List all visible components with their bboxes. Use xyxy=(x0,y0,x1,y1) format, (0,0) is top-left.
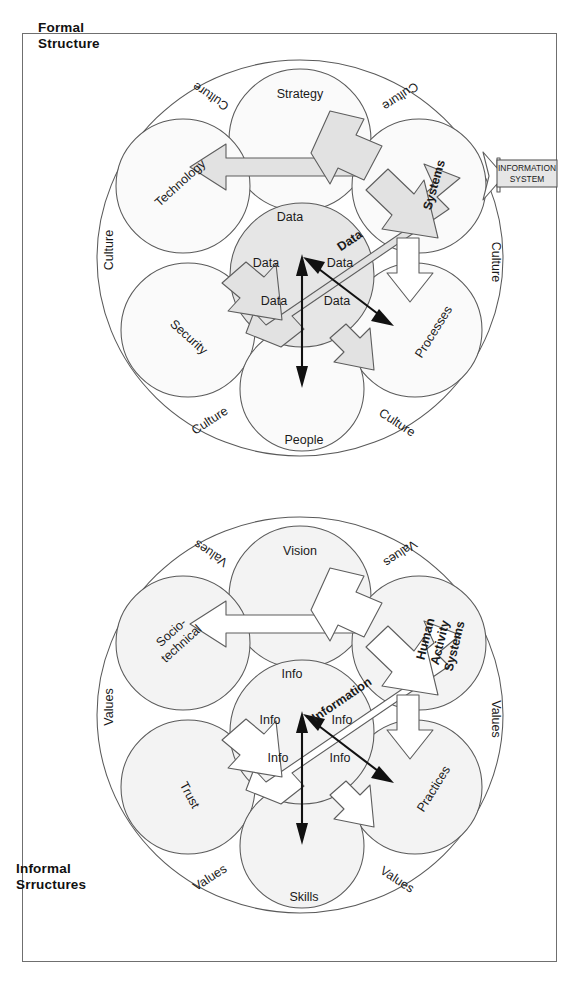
information-system-line1: INFORMATION xyxy=(498,163,556,173)
informal-structures-label: Informal Srructures xyxy=(16,861,86,893)
label-info-1: Info xyxy=(282,667,303,681)
ring-label-culture-top-left: Culture xyxy=(190,79,231,113)
ring-label-culture-bottom-left: Culture xyxy=(189,404,230,438)
ring-label-culture-bottom-right: Culture xyxy=(376,406,417,440)
formal-structure-line2: Structure xyxy=(38,36,100,52)
formal-structure-line1: Formal xyxy=(38,20,100,36)
label-data-3: Data xyxy=(327,256,353,270)
ring-label-culture-top-right: Culture xyxy=(380,79,421,113)
ring-label-culture-left: Culture xyxy=(102,230,116,270)
ring-label-values-bottom-right: Values xyxy=(378,864,417,896)
ring-label-culture-right: Culture xyxy=(489,242,503,282)
informal-structures-line1: Informal xyxy=(16,861,86,877)
ring-label-values-left: Values xyxy=(102,688,116,725)
ring-label-values-top-right: Values xyxy=(381,537,420,569)
diagram-canvas: Strategy Technology Security People Proc… xyxy=(0,0,588,989)
label-info-4: Info xyxy=(268,751,289,765)
label-info-5: Info xyxy=(330,751,351,765)
ring-label-values-top-left: Values xyxy=(191,537,230,569)
ring-label-values-bottom-left: Values xyxy=(190,862,229,894)
label-strategy: Strategy xyxy=(277,87,324,101)
informal-structures-line2: Srructures xyxy=(16,877,86,893)
label-info-3: Info xyxy=(332,713,353,727)
label-data-2: Data xyxy=(253,256,279,270)
label-data-5: Data xyxy=(324,294,350,308)
label-data-4: Data xyxy=(261,294,287,308)
label-people: People xyxy=(285,433,324,447)
label-vision: Vision xyxy=(283,544,317,558)
ring-label-values-right: Values xyxy=(489,700,503,737)
label-data-1: Data xyxy=(277,210,303,224)
formal-structure-label: Formal Structure xyxy=(38,20,100,52)
information-system-line2: SYSTEM xyxy=(510,174,544,184)
label-info-2: Info xyxy=(260,713,281,727)
label-skills: Skills xyxy=(289,890,318,904)
diagram-page: Strategy Technology Security People Proc… xyxy=(0,0,588,989)
